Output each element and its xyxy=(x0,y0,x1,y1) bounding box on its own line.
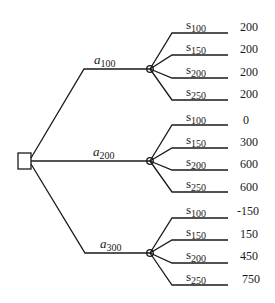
state-label: s250 xyxy=(186,84,206,101)
state-label: s250 xyxy=(186,269,206,286)
decision-node-square xyxy=(18,153,31,169)
payoff-value: 200 xyxy=(240,20,258,34)
payoff-value: 600 xyxy=(240,180,258,194)
payoff-value: 0 xyxy=(243,113,249,127)
payoff-value: 300 xyxy=(240,135,258,149)
action-branch-a100 xyxy=(31,69,150,158)
payoff-value: 600 xyxy=(240,157,258,171)
payoff-value: 150 xyxy=(240,227,258,241)
action-label-a100: a100 xyxy=(94,52,116,69)
state-label: s200 xyxy=(186,62,206,79)
action-branch-a300 xyxy=(31,164,150,253)
state-label: s250 xyxy=(186,176,206,193)
action-label-a200: a200 xyxy=(93,144,115,161)
payoff-value: 200 xyxy=(240,87,258,101)
state-label: s150 xyxy=(186,224,206,241)
payoff-value: 200 xyxy=(240,42,258,56)
state-label: s200 xyxy=(186,154,206,171)
payoff-value: 750 xyxy=(242,272,260,286)
state-label: s200 xyxy=(186,247,206,264)
action-label-a300: a300 xyxy=(100,236,122,253)
payoff-value: -150 xyxy=(237,204,259,218)
state-label: s100 xyxy=(186,17,206,34)
payoff-value: 200 xyxy=(240,65,258,79)
decision-tree-diagram: a100 a200 a300 s100 s150 s200 s250 s100 … xyxy=(0,0,275,303)
state-label: s150 xyxy=(186,132,206,149)
state-label: s100 xyxy=(186,202,206,219)
payoff-value: 450 xyxy=(240,249,258,263)
state-label: s100 xyxy=(186,109,206,126)
state-label: s150 xyxy=(186,39,206,56)
